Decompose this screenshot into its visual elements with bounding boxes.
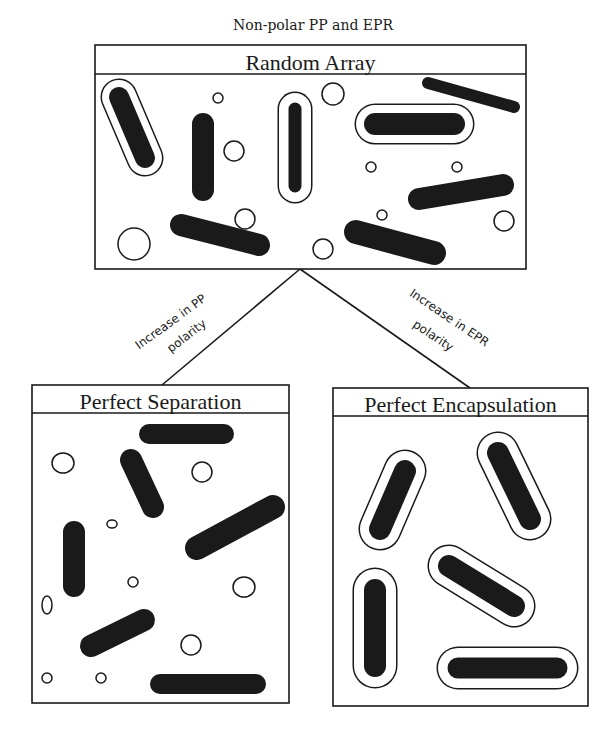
rubber-particle <box>233 577 255 597</box>
rubber-particle <box>118 228 150 260</box>
rubber-particle <box>224 141 244 161</box>
rubber-particle <box>313 239 333 259</box>
rubber-particle <box>452 162 462 172</box>
panel-title-random-array: Random Array <box>245 50 375 75</box>
rubber-particle <box>96 673 106 683</box>
panel-random-array: Random Array <box>95 45 526 269</box>
connector-line <box>300 269 470 388</box>
transition-labels: Increase in PP polarity Increase in EPR … <box>133 286 492 355</box>
rubber-particle <box>377 210 387 220</box>
rubber-particle <box>213 93 223 103</box>
rubber-particle <box>107 520 117 528</box>
rubber-particle <box>52 453 74 473</box>
encapsulated-rubber-particle <box>380 471 405 529</box>
rubber-particle <box>322 83 344 105</box>
filler-rod <box>419 185 503 199</box>
morphology-diagram: Non-polar PP and EPR Random Array Perfec… <box>0 0 614 732</box>
connector-line <box>162 269 300 385</box>
rubber-particle <box>366 162 376 172</box>
rubber-particle <box>42 673 52 683</box>
rubber-particle <box>181 635 201 655</box>
panel-title-perfect-separation: Perfect Separation <box>80 389 242 414</box>
panel-title-perfect-encapsulation: Perfect Encapsulation <box>364 392 556 417</box>
rubber-particle <box>494 211 514 231</box>
rubber-particle <box>128 577 138 587</box>
panel-perfect-separation: Perfect Separation <box>32 385 289 703</box>
figure-title: Non-polar PP and EPR <box>233 17 393 33</box>
rubber-particle <box>192 462 212 482</box>
rubber-particle <box>235 209 255 229</box>
encapsulated-rubber-particle <box>119 97 145 158</box>
panel-perfect-encapsulation: Perfect Encapsulation <box>333 388 588 706</box>
rubber-particle <box>42 596 52 614</box>
encapsulated-rubber-particle <box>498 453 530 519</box>
diagram-canvas: Non-polar PP and EPR Random Array Perfec… <box>0 0 614 732</box>
